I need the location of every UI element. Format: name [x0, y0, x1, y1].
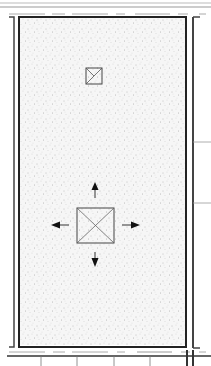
right-wall [193, 17, 211, 348]
bottom-dimension-strip [7, 350, 211, 366]
floor-area [20, 18, 185, 345]
floor-plan-drawing [0, 0, 211, 366]
top-dimension-strip [0, 3, 211, 14]
